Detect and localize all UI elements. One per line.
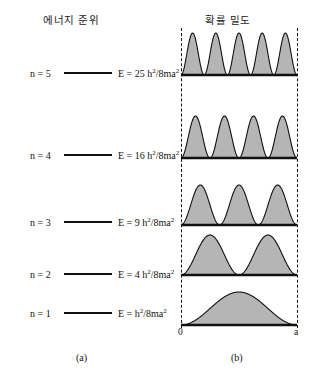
- energy-value-denominator-exponent: 2: [171, 215, 175, 223]
- density-area-shape: [181, 185, 297, 225]
- axis-tick-label-a: a: [294, 327, 298, 337]
- energy-value-denominator: /8ma: [151, 217, 171, 228]
- caption-panel-a: (a): [76, 352, 87, 363]
- probability-density-curve: [181, 182, 297, 228]
- probability-density-curve: [181, 289, 297, 328]
- energy-level-quantum-number: n = 4: [30, 150, 64, 161]
- energy-value-denominator-exponent: 2: [163, 306, 167, 314]
- density-area-shape: [181, 292, 297, 325]
- energy-level-quantum-number: n = 2: [30, 269, 64, 280]
- panel-b-title: 확률 밀도: [205, 12, 251, 27]
- energy-level-row: n = 4E = 16 h2/8ma2: [30, 148, 179, 162]
- energy-level-value: E = 16 h2/8ma2: [118, 150, 179, 161]
- energy-value-denominator: /8ma: [156, 150, 176, 161]
- energy-level-line: [64, 312, 112, 314]
- energy-level-quantum-number: n = 5: [30, 68, 64, 79]
- energy-level-row: n = 5E = 25 h2/8ma2: [30, 66, 179, 80]
- probability-density-curve: [181, 232, 297, 278]
- caption-panel-b: (b): [231, 352, 243, 363]
- energy-level-value: E = 9 h2/8ma2: [118, 217, 174, 228]
- energy-level-row: n = 3E = 9 h2/8ma2: [30, 215, 174, 229]
- energy-level-value: E = 4 h2/8ma2: [118, 269, 174, 280]
- energy-level-line: [64, 154, 112, 156]
- energy-level-line: [64, 273, 112, 275]
- energy-level-value: E = h2/8ma2: [118, 308, 167, 319]
- axis-tick-label-zero: 0: [178, 327, 183, 337]
- energy-value-prefix: E = 16 h: [118, 150, 152, 161]
- energy-value-denominator: /8ma: [156, 68, 176, 79]
- energy-level-line: [64, 72, 112, 74]
- energy-value-prefix: E = 9 h: [118, 217, 147, 228]
- energy-level-row: n = 2E = 4 h2/8ma2: [30, 267, 174, 281]
- box-wall-right-icon: [297, 28, 298, 328]
- probability-density-curve: [181, 30, 297, 78]
- energy-value-prefix: E = h: [118, 308, 140, 319]
- energy-level-quantum-number: n = 1: [30, 308, 64, 319]
- density-area-shape: [181, 33, 297, 75]
- energy-value-prefix: E = 4 h: [118, 269, 147, 280]
- energy-level-value: E = 25 h2/8ma2: [118, 68, 179, 79]
- probability-density-panel: [175, 28, 305, 328]
- energy-level-row: n = 1E = h2/8ma2: [30, 306, 167, 320]
- energy-value-denominator-exponent: 2: [171, 267, 175, 275]
- density-area-shape: [181, 235, 297, 275]
- density-area-shape: [181, 116, 297, 158]
- energy-value-denominator: /8ma: [143, 308, 163, 319]
- panel-a-title: 에너지 준위: [43, 12, 99, 27]
- energy-value-prefix: E = 25 h: [118, 68, 152, 79]
- energy-level-quantum-number: n = 3: [30, 217, 64, 228]
- energy-level-line: [64, 221, 112, 223]
- figure-canvas: 에너지 준위 확률 밀도 n = 5E = 25 h2/8ma2n = 4E =…: [0, 0, 310, 382]
- probability-density-curve: [181, 113, 297, 161]
- energy-value-denominator: /8ma: [151, 269, 171, 280]
